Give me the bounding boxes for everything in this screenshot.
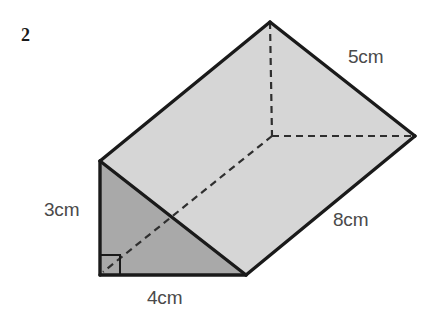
dimension-label-length: 8cm bbox=[333, 210, 368, 229]
figure-canvas: 2 3cm 4cm 5cm 8cm bbox=[0, 0, 444, 323]
dimension-label-base: 4cm bbox=[147, 288, 182, 307]
dimension-label-height: 3cm bbox=[44, 200, 79, 219]
dimension-label-hypotenuse: 5cm bbox=[348, 47, 383, 66]
question-number: 2 bbox=[21, 26, 30, 44]
